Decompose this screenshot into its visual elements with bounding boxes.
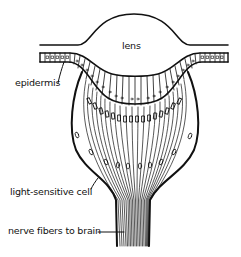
light-sensitive-cell-label: light-sensitive cell xyxy=(10,187,92,197)
epidermis-label: epidermis xyxy=(15,78,60,88)
epidermis-bottom-edge xyxy=(40,62,228,104)
epidermis-cells xyxy=(45,53,224,105)
eye-diagram xyxy=(0,0,241,257)
lens-label: lens xyxy=(122,41,141,51)
nerve-fibers-label: nerve fibers to brain xyxy=(8,226,101,236)
